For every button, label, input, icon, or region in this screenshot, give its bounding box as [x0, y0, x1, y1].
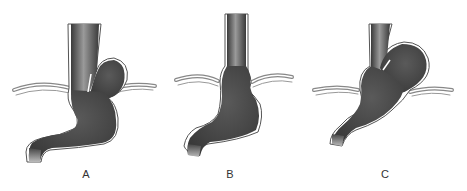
pylorus-b [188, 144, 201, 157]
diaphragm-left-a [14, 84, 70, 95]
panel-label-b: B [220, 168, 240, 180]
esophagus-b [227, 14, 246, 68]
panel-label-a: A [76, 168, 96, 180]
pylorus-c [332, 134, 344, 146]
diaphragm-right-c [410, 88, 452, 96]
panel-c [314, 24, 452, 146]
stomach-b [187, 66, 259, 156]
pylorus-a [29, 148, 41, 162]
stomach-c [332, 66, 404, 145]
diaphragm-right-b [252, 75, 292, 87]
stomach-a [29, 90, 116, 161]
panel-label-c: C [375, 168, 395, 180]
diaphragm-left-c [314, 88, 358, 96]
panel-a [14, 24, 155, 162]
panel-b [176, 14, 292, 157]
diaphragm-left-b [176, 76, 218, 86]
diagram-canvas [0, 0, 467, 191]
